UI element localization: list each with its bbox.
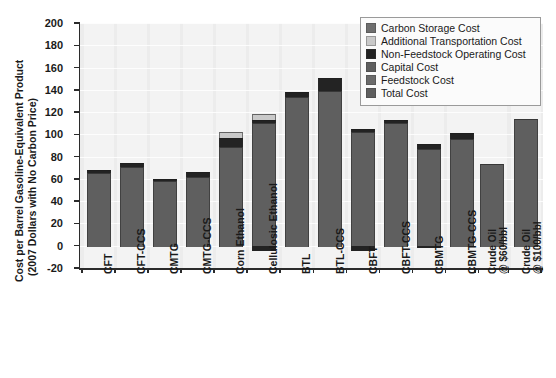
y-axis-tick-label: 0 — [57, 240, 63, 252]
y-axis-tick-label: 140 — [45, 84, 63, 96]
y-axis-tick — [74, 45, 80, 47]
legend-item[interactable]: Feedstock Cost — [366, 74, 535, 87]
y-axis-tick — [74, 89, 80, 91]
y-axis-tick — [74, 111, 80, 113]
bar-segment — [153, 181, 177, 247]
legend-swatch — [366, 88, 376, 98]
y-axis-tick — [74, 200, 80, 202]
x-axis-tick-label: BTL — [300, 254, 312, 274]
legend-label: Additional Transportation Cost — [381, 36, 522, 47]
x-axis-tick-label: BTL-CCS — [334, 228, 346, 274]
legend-item[interactable]: Carbon Storage Cost — [366, 22, 535, 35]
x-axis-tick-label: CFT — [102, 254, 114, 274]
y-axis-tick — [74, 223, 80, 225]
legend-item[interactable]: Additional Transportation Cost — [366, 35, 535, 48]
x-axis-tick-label: CFT-CCS — [135, 229, 147, 275]
legend-label: Capital Cost — [381, 62, 438, 73]
y-axis-tick-label: 120 — [45, 106, 63, 118]
y-axis-tick-label: 100 — [45, 128, 63, 140]
y-axis-tick — [74, 22, 80, 24]
legend-item[interactable]: Non-Feedstock Operating Cost — [366, 48, 535, 61]
x-axis-tick-label: CBMTG-CCS — [466, 210, 478, 274]
legend-label: Non-Feedstock Operating Cost — [381, 49, 526, 60]
legend-label: Feedstock Cost — [381, 75, 454, 86]
x-axis-tick-label: CMTG — [168, 243, 180, 274]
legend-swatch — [366, 23, 376, 33]
y-axis-tick-label: 20 — [51, 217, 63, 229]
x-axis-tick-label: CMTG-CCS — [201, 217, 213, 274]
bar-segment — [417, 149, 441, 247]
x-axis-tick-label: Corn Ethanol — [234, 208, 246, 274]
y-axis-tick-label: 180 — [45, 39, 63, 51]
x-axis-tick-label: Crude Oil — [521, 229, 532, 274]
bar-group[interactable] — [285, 23, 309, 268]
chart-legend: Carbon Storage CostAdditional Transporta… — [360, 17, 541, 106]
bar-group[interactable] — [153, 23, 177, 268]
x-axis-tick-labels: CFTCFT-CCSCMTGCMTG-CCSCorn EthanolCellul… — [0, 272, 556, 378]
bar-segment — [318, 78, 342, 92]
x-axis-tick-label: CBFT-CCS — [400, 221, 412, 274]
y-axis-tick — [74, 67, 80, 69]
legend-swatch — [366, 62, 376, 72]
y-axis-tick-label: 200 — [45, 17, 63, 29]
legend-item[interactable]: Capital Cost — [366, 61, 535, 74]
legend-item[interactable]: Total Cost — [366, 87, 535, 100]
legend-label: Carbon Storage Cost — [381, 23, 480, 34]
legend-swatch — [366, 36, 376, 46]
y-axis-tick-label: 160 — [45, 62, 63, 74]
bar-chart: Cost per Barrel Gasoline-Equivalent Prod… — [0, 0, 556, 378]
x-axis-tick-label: Crude Oil — [487, 229, 498, 274]
y-axis-tick — [74, 178, 80, 180]
bar-group[interactable] — [87, 23, 111, 268]
x-axis-tick-label: CBFT — [367, 246, 379, 274]
x-axis-tick-label: @ $60/bbl — [498, 227, 509, 274]
bar-segment — [285, 97, 309, 247]
legend-swatch — [366, 49, 376, 59]
y-axis-tick-label: 80 — [51, 151, 63, 163]
y-axis-tick — [74, 245, 80, 247]
bar-segment — [318, 91, 342, 247]
y-axis-tick — [74, 156, 80, 158]
y-axis-tick — [74, 134, 80, 136]
x-axis-tick-label: CBMTG — [433, 236, 445, 275]
bar-segment — [87, 173, 111, 246]
y-axis-tick-label: 60 — [51, 173, 63, 185]
bar-segment — [351, 132, 375, 247]
x-axis-tick-label: @ $100/bbl — [532, 221, 543, 274]
y-axis-tick-label: 40 — [51, 195, 63, 207]
x-axis-tick-label: Cellulosic Ethanol — [267, 183, 279, 274]
y-axis-tick-labels: -20020406080100120140160180200 — [0, 23, 72, 268]
legend-label: Total Cost — [381, 88, 428, 99]
legend-swatch — [366, 75, 376, 85]
